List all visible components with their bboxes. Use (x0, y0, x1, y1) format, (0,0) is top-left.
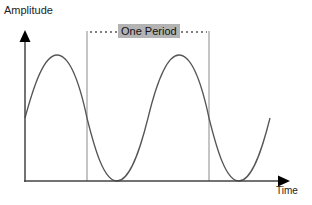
x-axis-label: Time (276, 185, 298, 196)
y-axis-arrow-icon (20, 30, 31, 42)
sine-wave-curve (25, 55, 270, 181)
y-axis-label: Amplitude (4, 4, 53, 16)
period-label: One Period (118, 24, 180, 38)
